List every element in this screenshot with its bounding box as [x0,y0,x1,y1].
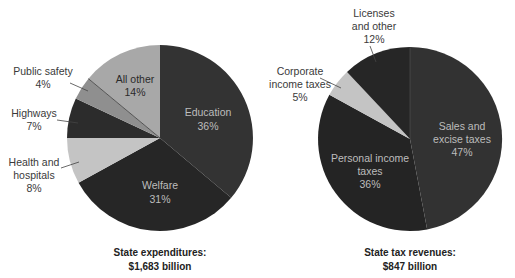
label-corporate-1: Corporate [277,65,324,77]
value-public-safety: 4% [35,78,50,90]
label-personal-2: taxes [357,165,382,177]
value-corporate: 5% [292,91,307,103]
expenditures-total: $1,683 billion [129,261,192,272]
label-education: Education [185,106,232,118]
label-corporate-2: income taxes [269,78,331,90]
value-sales: 47% [451,146,472,158]
label-all-other: All other [116,73,155,85]
label-licenses-2: and other [352,20,397,32]
value-licenses: 12% [363,33,384,45]
label-sales-1: Sales and [439,120,486,132]
revenues-total: $847 billion [383,261,437,272]
value-welfare: 31% [149,193,170,205]
label-health-hospitals-2: hospitals [13,169,54,181]
value-highways: 7% [26,120,41,132]
value-education: 36% [197,120,218,132]
value-health-hospitals: 8% [26,182,41,194]
label-public-safety: Public safety [13,65,73,77]
value-personal: 36% [359,178,380,190]
label-highways: Highways [11,107,57,119]
label-personal-1: Personal income [331,152,409,164]
label-licenses-1: Licenses [353,7,394,19]
expenditures-title: State expenditures: [114,247,207,258]
expenditures-pie: Education 36% Welfare 31% All other 14% … [9,45,253,272]
label-welfare: Welfare [142,179,178,191]
value-all-other: 14% [124,86,145,98]
label-health-hospitals-1: Health and [9,156,60,168]
pie-charts: Education 36% Welfare 31% All other 14% … [0,0,515,278]
label-sales-2: excise taxes [433,133,491,145]
tax-revenues-pie: Sales and excise taxes 47% Personal inco… [269,7,502,272]
revenues-title: State tax revenues: [364,247,456,258]
